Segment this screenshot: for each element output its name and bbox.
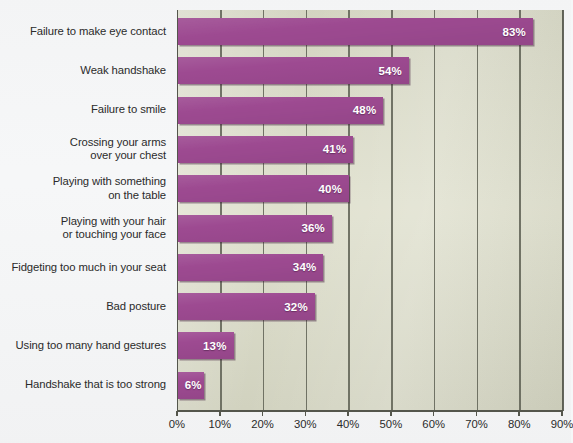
bar-value-label: 32% (284, 301, 308, 313)
x-tick-label: 90% (551, 418, 573, 430)
gridline-60pct (434, 10, 436, 411)
bar-value-label: 41% (323, 143, 347, 155)
bar: 13% (178, 332, 234, 359)
x-tick-mark (176, 411, 178, 416)
x-tick-label: 20% (251, 418, 274, 430)
bar-value-label: 13% (203, 340, 227, 352)
x-tick-label: 60% (422, 418, 445, 430)
bar: 48% (178, 97, 383, 124)
x-tick-label: 80% (508, 418, 531, 430)
bar-value-label: 36% (301, 222, 325, 234)
category-label: Fidgeting too much in your seat (0, 254, 172, 281)
category-axis-labels: Failure to make eye contactWeak handshak… (0, 0, 172, 411)
gridline-90pct (562, 10, 564, 411)
x-tick-label: 50% (380, 418, 403, 430)
bar: 32% (178, 293, 315, 320)
bar-value-label: 54% (378, 65, 402, 77)
category-label-line: Weak handshake (80, 64, 166, 78)
bar-value-label: 83% (502, 26, 526, 38)
bar: 6% (178, 372, 204, 399)
bar: 83% (178, 18, 533, 45)
gridline-70pct (477, 10, 479, 411)
bar: 34% (178, 254, 323, 281)
category-label-line: or touching your face (63, 228, 166, 242)
x-tick-mark (390, 411, 392, 416)
category-label-line: Playing with something (53, 175, 166, 189)
x-tick-label: 40% (337, 418, 360, 430)
category-label: Handshake that is too strong (0, 372, 172, 399)
x-tick-mark (433, 411, 435, 416)
category-label-line: Failure to smile (91, 103, 166, 117)
category-label-line: Fidgeting too much in your seat (11, 261, 166, 275)
category-label: Failure to make eye contact (0, 18, 172, 45)
category-label-line: Handshake that is too strong (25, 378, 166, 392)
x-axis: 0%10%20%30%40%50%60%70%80%90% (177, 411, 563, 443)
x-tick-mark (476, 411, 478, 416)
x-tick-mark (518, 411, 520, 416)
x-tick-label: 30% (294, 418, 317, 430)
category-label-line: Crossing your arms (70, 136, 166, 150)
category-label-line: on the table (108, 189, 166, 203)
category-label: Failure to smile (0, 97, 172, 124)
x-tick-mark (561, 411, 563, 416)
x-tick-label: 0% (169, 418, 185, 430)
bar: 40% (178, 175, 349, 202)
gridline-80pct (519, 10, 521, 411)
plot-area: 83%54%48%41%40%36%34%32%13%6% (177, 10, 563, 411)
bar: 54% (178, 57, 409, 84)
x-tick-mark (219, 411, 221, 416)
x-tick-label: 10% (208, 418, 231, 430)
category-label: Crossing your armsover your chest (0, 136, 172, 163)
category-label: Using too many hand gestures (0, 332, 172, 359)
x-tick-mark (305, 411, 307, 416)
x-tick-label: 70% (465, 418, 488, 430)
category-label: Bad posture (0, 293, 172, 320)
bar-value-label: 6% (185, 379, 202, 391)
category-label-line: Failure to make eye contact (30, 25, 166, 39)
x-tick-mark (262, 411, 264, 416)
bar-value-label: 40% (318, 183, 342, 195)
bar: 41% (178, 136, 353, 163)
category-label-line: Using too many hand gestures (16, 339, 166, 353)
bar-value-label: 48% (353, 104, 377, 116)
category-label: Playing with somethingon the table (0, 175, 172, 202)
x-tick-mark (347, 411, 349, 416)
category-label: Weak handshake (0, 57, 172, 84)
category-label-line: over your chest (90, 149, 166, 163)
category-label-line: Bad posture (106, 300, 166, 314)
category-label-line: Playing with your hair (61, 215, 166, 229)
bar: 36% (178, 215, 332, 242)
category-label: Playing with your hairor touching your f… (0, 215, 172, 242)
bar-value-label: 34% (293, 261, 317, 273)
